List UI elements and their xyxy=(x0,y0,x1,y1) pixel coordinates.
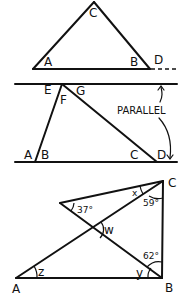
side-cb xyxy=(94,2,150,69)
label-b: B xyxy=(41,148,49,162)
label-b: B xyxy=(165,281,173,295)
angle-x-label: x xyxy=(132,188,138,198)
angle-37-label: 37° xyxy=(77,205,93,215)
label-a: A xyxy=(12,282,21,296)
arc-62 xyxy=(147,262,162,267)
geometry-diagram: C A B D E F G A B C D PARALLEL xyxy=(0,0,189,297)
label-e: E xyxy=(44,83,52,97)
label-c: C xyxy=(130,148,138,162)
label-a: A xyxy=(24,148,33,162)
label-a: A xyxy=(44,55,53,69)
side-bc xyxy=(162,181,163,278)
parallel-annotation: PARALLEL xyxy=(117,105,166,116)
label-c: C xyxy=(168,176,176,190)
label-f: F xyxy=(60,93,67,107)
label-g: G xyxy=(76,84,85,98)
side-ac xyxy=(33,2,94,69)
angle-w-label: w xyxy=(104,223,114,237)
arc-z xyxy=(34,266,37,278)
arc-37 xyxy=(71,203,74,211)
angle-62-label: 62° xyxy=(143,251,159,261)
angle-y-label: y xyxy=(136,266,143,280)
angle-59-label: 59° xyxy=(143,198,159,208)
arc-y xyxy=(148,268,151,278)
arrow-up-curve xyxy=(160,87,162,102)
label-d: D xyxy=(157,148,166,162)
label-d: D xyxy=(154,53,163,67)
figure-2-parallel: E F G A B C D PARALLEL xyxy=(15,83,177,162)
arc-x xyxy=(140,186,143,194)
angle-z-label: z xyxy=(38,265,44,279)
figure-3-crossed-triangles: C B A x 59° 37° w 62° y z xyxy=(12,176,176,296)
figure-1-triangle: C A B D xyxy=(33,2,178,69)
label-c: C xyxy=(89,6,97,20)
label-b: B xyxy=(130,55,138,69)
